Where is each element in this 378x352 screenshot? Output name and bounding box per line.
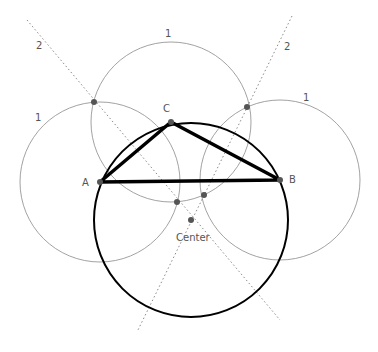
vertex-point-b [277, 177, 283, 183]
intersection-point [201, 192, 207, 198]
perpendicular-bisectors [27, 16, 292, 332]
radius-label: 1 [35, 112, 41, 123]
vertex-point-c [168, 119, 174, 125]
radius-label: 1 [165, 28, 171, 39]
vertex-label-b: B [289, 174, 296, 185]
intersection-point [174, 199, 180, 205]
intersection-point [244, 104, 250, 110]
vertex-label-c: C [163, 103, 170, 114]
triangle-abc [100, 122, 280, 182]
center-label: Center [176, 232, 211, 243]
points [91, 99, 283, 223]
center-point [188, 217, 194, 223]
vertex-label-a: A [82, 177, 89, 188]
geometry-canvas: 22111ABCCenter [0, 0, 378, 352]
bisector-label: 2 [36, 40, 42, 51]
intersection-point [91, 99, 97, 105]
construction-circles [20, 42, 360, 262]
radius-label: 1 [303, 92, 309, 103]
bisector-label: 2 [284, 41, 290, 52]
bisector-line-1 [27, 20, 280, 320]
labels: 22111ABCCenter [35, 28, 309, 243]
vertex-point-a [97, 179, 103, 185]
